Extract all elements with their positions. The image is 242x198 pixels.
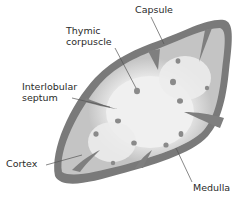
thymic-corpuscle-label-line2: corpuscle (66, 36, 112, 47)
capsule-label: Capsule (135, 4, 173, 15)
cortex-label: Cortex (6, 158, 37, 169)
medulla-leader-line (176, 148, 192, 182)
thymus-lobule-diagram: Capsule Thymic corpuscle Interlobular se… (0, 0, 242, 198)
interlobular-septum-label-line2: septum (22, 92, 58, 103)
interlobular-septum-label-line1: Interlobular (22, 81, 77, 92)
medulla-label: Medulla (193, 182, 230, 193)
capsule-leader-line (151, 17, 164, 44)
thymic-corpuscle-label-line1: Thymic (66, 25, 101, 36)
